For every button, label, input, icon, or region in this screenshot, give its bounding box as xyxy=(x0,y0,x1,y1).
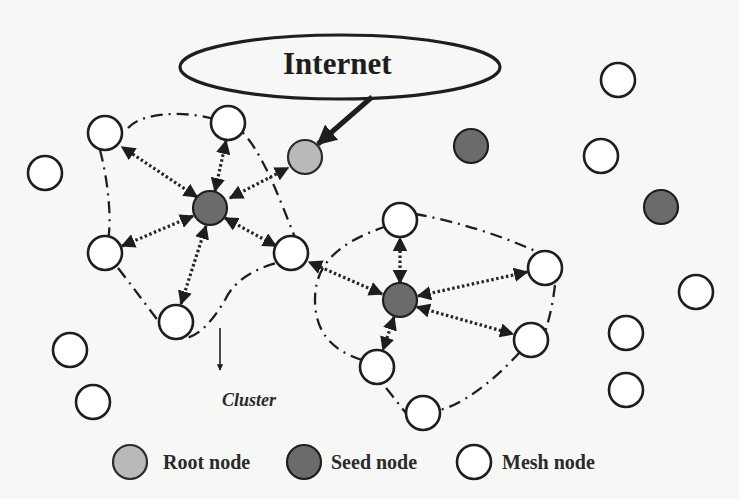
cluster-1-seed-node xyxy=(193,191,227,225)
legend-mesh-label: Mesh node xyxy=(502,451,595,474)
isolated-seed-node xyxy=(644,190,678,224)
legend-seed-icon xyxy=(287,445,321,479)
cluster-1-boundary xyxy=(100,114,296,338)
cluster-2-boundary xyxy=(315,214,555,418)
cluster-2-seed-node xyxy=(383,283,417,317)
legend-root-icon xyxy=(113,445,147,479)
isolated-mesh-node xyxy=(609,316,643,350)
internet-root-link xyxy=(318,97,372,144)
isolated-mesh-node xyxy=(601,63,635,97)
cluster-2-mesh-node xyxy=(360,350,394,384)
internet-label: Internet xyxy=(283,46,391,82)
isolated-seed-node xyxy=(454,129,488,163)
cluster-2-mesh-node xyxy=(514,323,548,357)
cluster-1-mesh-node xyxy=(88,236,122,270)
nodes-layer xyxy=(28,63,713,430)
cluster-1-mesh-node xyxy=(211,106,245,140)
legend-seed-label: Seed node xyxy=(331,451,417,474)
inter-cluster-link xyxy=(309,262,382,294)
cluster-2-mesh-node xyxy=(528,251,562,285)
legend-mesh-icon xyxy=(457,445,491,479)
isolated-mesh-node xyxy=(679,275,713,309)
cluster-1-mesh-node xyxy=(88,116,122,150)
isolated-mesh-node xyxy=(53,333,87,367)
cluster-label: Cluster xyxy=(222,390,276,411)
cluster-2-mesh-node xyxy=(383,203,417,237)
mesh-network-diagram: Internet Cluster Root node Seed node Mes… xyxy=(0,0,739,499)
isolated-mesh-node xyxy=(28,156,62,190)
legend-root-label: Root node xyxy=(163,451,250,474)
cluster-1-mesh-node xyxy=(274,236,308,270)
cluster-1-mesh-node xyxy=(159,305,193,339)
cluster-2-mesh-node xyxy=(406,396,440,430)
isolated-mesh-node xyxy=(584,139,618,173)
isolated-mesh-node xyxy=(76,385,110,419)
root-node xyxy=(288,140,322,174)
cluster-1-boundary-tail xyxy=(225,262,280,300)
isolated-mesh-node xyxy=(609,373,643,407)
